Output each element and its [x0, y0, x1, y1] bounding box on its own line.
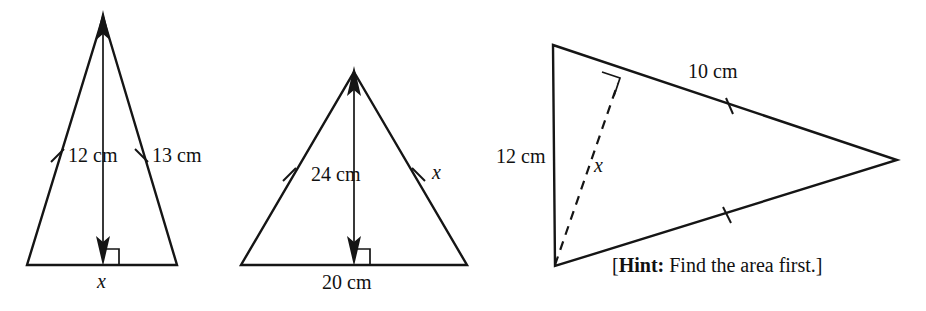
triangle-1-height-label: 12 cm	[68, 144, 118, 166]
hint-open-bracket: [	[612, 254, 619, 276]
triangle-1-leg-label: 13 cm	[152, 144, 202, 166]
triangle-1-tick-right-icon	[135, 149, 148, 162]
hint-close-bracket: ]	[816, 254, 823, 276]
triangle-3-tick-lower-icon	[723, 207, 731, 223]
triangle-2-height-label: 24 cm	[311, 163, 361, 185]
triangle-1: 12 cm 13 cm x	[27, 10, 202, 292]
triangle-1-base-label: x	[96, 270, 106, 292]
hint-lead: Hint:	[619, 254, 665, 276]
triangle-3-vertical-side-label: 12 cm	[496, 145, 546, 167]
triangle-3-altitude-dashed	[555, 83, 618, 265]
triangle-3-upper-side-label: 10 cm	[688, 60, 738, 82]
hint-text: Find the area first.	[664, 254, 816, 276]
triangle-2-base-label: 20 cm	[322, 271, 372, 293]
geometry-figure-set: 12 cm 13 cm x 24 cm x 20 cm	[0, 0, 926, 311]
triangle-3: 12 cm 10 cm x	[496, 45, 897, 266]
triangle-3-right-angle-icon	[602, 72, 620, 96]
triangle-2: 24 cm x 20 cm	[241, 66, 467, 293]
hint-note: [Hint: Find the area first.]	[612, 254, 823, 276]
triangle-1-tick-left-icon	[51, 149, 64, 162]
triangle-1-outline	[27, 17, 177, 265]
triangle-3-altitude-label: x	[593, 154, 603, 176]
triangle-2-leg-label: x	[431, 161, 441, 183]
